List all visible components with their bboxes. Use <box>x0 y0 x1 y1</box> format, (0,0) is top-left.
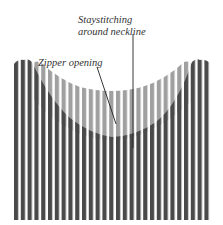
staystitching-label-line1: Staystitching <box>78 14 132 26</box>
staystitching-label: Staystitching around neckline <box>78 14 132 38</box>
staystitching-label-line2: around neckline <box>78 26 132 38</box>
zipper-opening-label: Zipper opening <box>38 57 102 69</box>
